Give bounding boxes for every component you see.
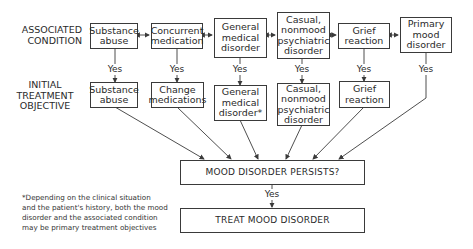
condition-casual-nonmood-psychiatric-disorder: Casual, nonmood psychiatric disorder	[277, 12, 330, 59]
yes-label: Yes	[225, 64, 255, 74]
objective-general-medical-disorder: General medical disorder*	[214, 85, 267, 121]
yes-label: Yes	[411, 64, 441, 74]
decision-mood-disorder-persists: MOOD DISORDER PERSISTS?	[180, 160, 365, 185]
yes-label: Yes	[257, 189, 287, 199]
yes-label: Yes	[287, 64, 317, 74]
objective-change-medications: Change medications	[151, 82, 204, 108]
yes-label: Yes	[100, 64, 130, 74]
objective-casual-nonmood-psychiatric-disorder: Casual, nonmood psychiatric disorder	[277, 83, 330, 126]
footnote: *Depending on the clinical situation and…	[22, 193, 172, 233]
condition-substance-abuse: Substance abuse	[90, 23, 138, 49]
condition-grief-reaction: Grief reaction	[338, 23, 390, 49]
row-label-associated-condition: ASSOCIATED CONDITION	[8, 25, 82, 46]
outcome-treat-mood-disorder: TREAT MOOD DISORDER	[180, 208, 365, 233]
condition-general-medical-disorder: General medical disorder	[214, 18, 267, 58]
objective-grief-reaction: Grief reaction	[339, 81, 390, 108]
row-label-initial-treatment-objective: INITIAL TREATMENT OBJECTIVE	[8, 80, 82, 112]
yes-label: Yes	[349, 64, 379, 74]
condition-primary-mood-disorder: Primary mood disorder	[400, 17, 452, 53]
condition-concurrent-medication: Concurrent medication	[151, 23, 203, 49]
yes-label: Yes	[162, 64, 192, 74]
objective-substance-abuse: Substance abuse	[90, 82, 138, 108]
